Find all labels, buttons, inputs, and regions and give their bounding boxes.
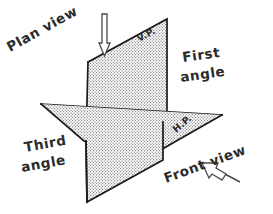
projection-planes-diagram: Plan view V.P. First angle H.P. Front vi… bbox=[0, 0, 273, 214]
plan-view-arrow bbox=[99, 14, 110, 56]
label-first-angle-line1: First bbox=[181, 44, 221, 65]
fold-line bbox=[86, 141, 87, 202]
label-third-angle-line2: angle bbox=[20, 151, 67, 175]
diagram-canvas: Plan view V.P. First angle H.P. Front vi… bbox=[0, 0, 273, 214]
label-first-angle-line2: angle bbox=[179, 63, 226, 85]
label-plan-view: Plan view bbox=[4, 3, 80, 55]
